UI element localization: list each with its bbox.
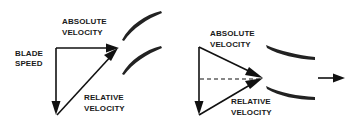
right-absolute-velocity-label-line1: ABSOLUTE (210, 29, 255, 38)
left-lower-blade-icon (122, 46, 162, 75)
left-absolute-velocity-label-line2: VELOCITY (62, 28, 103, 37)
flow-direction-arrow-icon (333, 74, 345, 83)
right-upper-blade-icon (266, 45, 315, 60)
blade-speed-label-line2: SPEED (15, 59, 43, 68)
left-relative-velocity-label-line1: RELATIVE (84, 93, 124, 102)
right-relative-velocity-label-line2: VELOCITY (231, 108, 272, 117)
blade-speed-label-line1: BLADE (15, 49, 44, 58)
right-absolute-velocity-vector (199, 47, 255, 74)
right-absolute-velocity-label-line2: VELOCITY (210, 40, 251, 49)
left-velocity-triangle: ABSOLUTE VELOCITY BLADE SPEED RELATIVE V… (15, 11, 162, 115)
right-absolute-velocity-arrowhead (245, 67, 263, 78)
right-velocity-triangle: ABSOLUTE VELOCITY RELATIVE VELOCITY (195, 29, 346, 117)
left-absolute-velocity-label-line1: ABSOLUTE (62, 17, 107, 26)
left-relative-velocity-label-line2: VELOCITY (84, 104, 125, 113)
left-upper-blade-icon (122, 11, 162, 41)
right-relative-velocity-label-line1: RELATIVE (231, 97, 271, 106)
right-relative-velocity-arrowhead (245, 78, 263, 89)
right-lower-blade-icon (266, 86, 315, 100)
velocity-triangle-diagram: ABSOLUTE VELOCITY BLADE SPEED RELATIVE V… (0, 0, 354, 125)
